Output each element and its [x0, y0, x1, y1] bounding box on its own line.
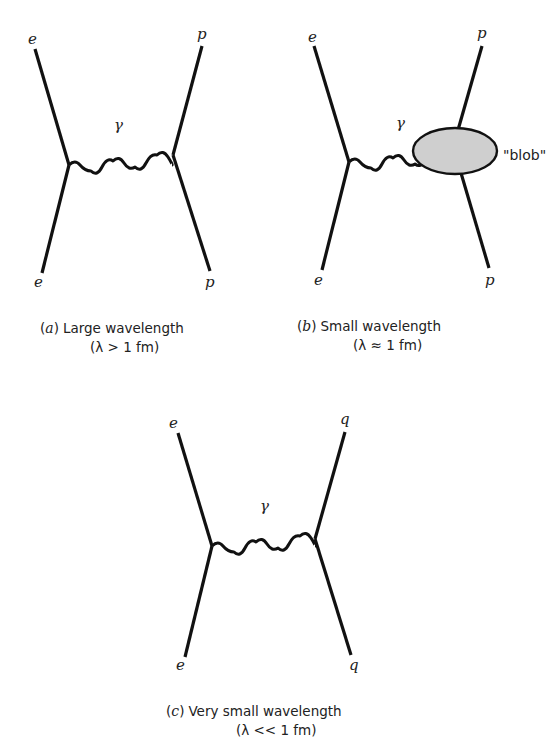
electron-line-lower — [185, 546, 212, 657]
label-photon: γ — [396, 114, 405, 132]
label-proton-in: p — [205, 273, 215, 291]
label-electron-out: e — [34, 273, 43, 291]
label-proton-in: p — [485, 271, 495, 289]
photon-propagator — [349, 155, 424, 170]
quark-line-upper — [315, 432, 345, 539]
label-photon: γ — [260, 497, 269, 515]
panel-b-diagram: e p γ e p "blob" — [308, 24, 546, 289]
panel-a-diagram: e p γ e p — [28, 25, 215, 291]
feynman-diagrams-figure: e p γ e p (a)Large wavelength (λ > 1 fm)… — [0, 0, 559, 748]
photon-propagator — [69, 152, 172, 173]
label-quark-out: q — [340, 410, 350, 428]
proton-line-upper — [173, 46, 202, 155]
electron-line-upper — [314, 46, 349, 162]
panel-a-caption: (a)Large wavelength (λ > 1 fm) — [40, 320, 184, 355]
caption-b-title: (b)Small wavelength — [297, 318, 441, 334]
label-blob: "blob" — [503, 147, 546, 163]
blob-ellipse — [413, 128, 497, 174]
proton-line-lower — [461, 173, 489, 268]
proton-line-lower — [173, 155, 210, 271]
label-photon: γ — [114, 116, 123, 134]
caption-b-condition: (λ ≈ 1 fm) — [353, 337, 422, 353]
panel-c-diagram: e q γ e q — [169, 410, 359, 674]
label-electron-out: e — [314, 271, 323, 289]
electron-line-lower — [42, 165, 69, 273]
label-electron-in: e — [28, 30, 37, 48]
quark-line-lower — [315, 539, 351, 655]
label-electron-out: e — [176, 656, 185, 674]
caption-c-condition: (λ << 1 fm) — [236, 722, 317, 738]
label-quark-in: q — [349, 656, 359, 674]
label-proton-out: p — [197, 25, 207, 43]
caption-a-condition: (λ > 1 fm) — [90, 339, 159, 355]
label-electron-in: e — [308, 28, 317, 46]
label-electron-in: e — [169, 414, 178, 432]
panel-c-caption: (c)Very small wavelength (λ << 1 fm) — [166, 703, 342, 738]
panel-b-caption: (b)Small wavelength (λ ≈ 1 fm) — [297, 318, 441, 353]
electron-line-upper — [178, 433, 212, 546]
electron-line-upper — [35, 49, 69, 165]
label-proton-out: p — [477, 24, 487, 42]
caption-c-title: (c)Very small wavelength — [166, 703, 342, 719]
photon-propagator — [212, 533, 315, 554]
caption-a-title: (a)Large wavelength — [40, 320, 184, 336]
proton-line-upper — [458, 46, 482, 130]
electron-line-lower — [322, 162, 349, 270]
